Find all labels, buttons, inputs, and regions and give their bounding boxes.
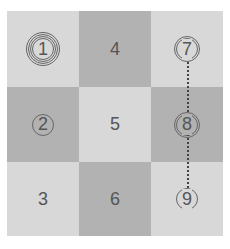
cell-5: 5 [79, 87, 151, 162]
cell-4: 4 [79, 11, 151, 87]
cell-label: 3 [38, 189, 48, 210]
cell-label: 8 [182, 114, 192, 135]
cell-3: 3 [7, 162, 79, 236]
double-ring-icon: 8 [176, 114, 198, 136]
cell-label: 1 [38, 39, 48, 60]
cell-label: 6 [110, 189, 120, 210]
double-ring-icon: 7 [176, 38, 198, 60]
cell-label: 4 [110, 39, 120, 60]
cell-label: 7 [182, 39, 192, 60]
cell-1: 1 [7, 11, 79, 87]
single-ring-icon: 9 [176, 188, 198, 210]
cell-label: 2 [38, 114, 48, 135]
single-ring-icon: 2 [32, 114, 54, 136]
multi-ring-icon: 1 [32, 38, 54, 60]
cell-2: 2 [7, 87, 79, 162]
cell-label: 9 [182, 189, 192, 210]
number-grid: 1 4 7 2 5 8 3 6 9 [7, 11, 223, 236]
cell-6: 6 [79, 162, 151, 236]
cell-label: 5 [110, 114, 120, 135]
